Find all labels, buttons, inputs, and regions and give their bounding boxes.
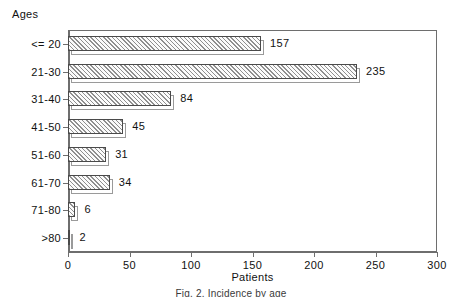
category-label: 61-70 [31,177,61,189]
bar-row: <= 20157 [68,30,437,58]
category-label: 21-30 [31,66,61,78]
bar-value-label: 31 [115,148,128,160]
bar-row: >802 [68,224,437,252]
x-axis-tick-label: 150 [243,259,262,271]
x-axis-tick [191,252,192,257]
x-axis-tick [437,252,438,257]
bar-row: 71-806 [68,197,437,225]
category-label: <= 20 [31,38,61,50]
x-axis-tick-label: 250 [366,259,385,271]
bar-row: 31-4084 [68,86,437,114]
x-axis-tick [376,252,377,257]
bar-value-label: 2 [79,231,85,243]
bar-value-label: 6 [84,203,90,215]
bar-value-label: 34 [119,176,132,188]
bar[interactable] [68,175,110,190]
x-axis-tick [68,252,69,257]
bar-row: 61-7034 [68,169,437,197]
bar-value-label: 235 [366,65,385,77]
category-label: >80 [41,232,61,244]
category-label: 41-50 [31,121,61,133]
x-axis-tick-label: 200 [304,259,323,271]
bar-shadow [71,234,73,249]
figure: Ages <= 2015721-3023531-408441-504551-60… [0,0,462,297]
figure-caption: Fig. 2. Incidence by age [0,288,462,297]
x-axis-tick [314,252,315,257]
x-axis-tick-label: 50 [123,259,136,271]
chart-title-ages: Ages [12,8,38,20]
category-label: 51-60 [31,149,61,161]
x-axis-tick [253,252,254,257]
bar-row: 41-5045 [68,113,437,141]
x-axis-tick-label: 100 [181,259,200,271]
x-axis-tick-label: 0 [65,259,71,271]
x-axis-tick [130,252,131,257]
x-axis-title: Patients [231,271,273,283]
bar[interactable] [68,36,261,51]
bar[interactable] [68,202,75,217]
bar[interactable] [68,230,70,245]
bar-row: 21-30235 [68,58,437,86]
category-label: 31-40 [31,93,61,105]
bar[interactable] [68,119,123,134]
bar-rows: <= 2015721-3023531-408441-504551-603161-… [68,30,437,252]
bar[interactable] [68,64,357,79]
x-axis: 050100150200250300 [68,252,437,253]
category-label: 71-80 [31,204,61,216]
bar-row: 51-6031 [68,141,437,169]
bar[interactable] [68,91,171,106]
bar-value-label: 157 [270,37,289,49]
bar-value-label: 84 [180,92,193,104]
bar[interactable] [68,147,106,162]
bar-value-label: 45 [132,120,145,132]
x-axis-tick-label: 300 [427,259,446,271]
